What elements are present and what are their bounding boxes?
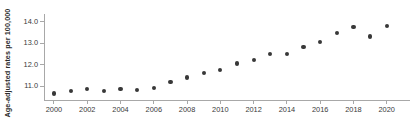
y-axis-title: Age-adjusted rates per 100,000	[0, 0, 14, 126]
data-point	[85, 87, 89, 91]
data-point	[301, 45, 305, 49]
data-point	[118, 87, 122, 91]
x-axis-line	[44, 100, 410, 101]
y-axis-tick-mark	[40, 64, 45, 65]
data-point	[185, 75, 189, 79]
data-point	[102, 89, 106, 93]
data-point	[152, 86, 156, 90]
data-point	[202, 71, 206, 75]
data-point	[385, 24, 389, 28]
y-axis-tick-mark	[40, 21, 45, 22]
x-axis-tick-label: 2002	[70, 105, 104, 114]
x-axis-tick-label: 2012	[237, 105, 271, 114]
data-point	[285, 52, 289, 56]
data-point	[69, 89, 73, 93]
x-axis-tick-mark	[220, 100, 221, 104]
y-axis-tick-label: 14.0	[14, 17, 38, 26]
data-point	[335, 31, 339, 35]
x-axis-tick-mark	[187, 100, 188, 104]
x-axis-tick-label: 2010	[203, 105, 237, 114]
x-axis-tick-label: 2008	[170, 105, 204, 114]
data-point	[235, 61, 239, 65]
x-axis-tick-mark	[253, 100, 254, 104]
x-axis-tick-mark	[87, 100, 88, 104]
x-axis-tick-label: 2000	[37, 105, 71, 114]
data-point	[168, 80, 172, 84]
y-axis-tick-label: 12.0	[14, 60, 38, 69]
data-point	[318, 40, 322, 44]
x-axis-tick-mark	[153, 100, 154, 104]
data-point	[135, 88, 139, 92]
y-axis-tick-mark	[40, 43, 45, 44]
data-point	[218, 68, 222, 72]
y-axis-tick-mark	[40, 86, 45, 87]
x-axis-tick-label: 2016	[303, 105, 337, 114]
data-point	[368, 34, 372, 38]
y-axis-tick-label: 13.0	[14, 38, 38, 47]
x-axis-tick-mark	[286, 100, 287, 104]
data-point	[52, 91, 56, 95]
x-axis-tick-mark	[53, 100, 54, 104]
x-axis-tick-label: 2018	[336, 105, 370, 114]
data-point	[252, 58, 256, 62]
x-axis-tick-mark	[353, 100, 354, 104]
y-axis-tick-label: 11.0	[14, 81, 38, 90]
x-axis-tick-label: 2014	[270, 105, 304, 114]
x-axis-tick-label: 2004	[104, 105, 138, 114]
x-axis-tick-mark	[120, 100, 121, 104]
x-axis-tick-mark	[386, 100, 387, 104]
x-axis-tick-mark	[320, 100, 321, 104]
data-point	[268, 52, 272, 56]
data-point	[351, 25, 355, 29]
y-axis-line	[44, 14, 45, 100]
x-axis-tick-label: 2006	[137, 105, 171, 114]
x-axis-tick-label: 2020	[370, 105, 404, 114]
scatter-chart: Age-adjusted rates per 100,000 11.012.01…	[0, 0, 415, 126]
